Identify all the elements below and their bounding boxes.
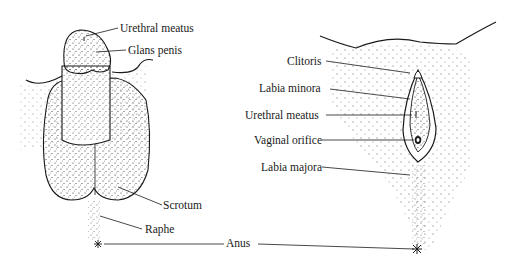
label-raphe: Raphe bbox=[145, 224, 174, 236]
female-figure bbox=[320, 22, 496, 254]
label-scrotum: Scrotum bbox=[163, 200, 202, 212]
label-clitoris: Clitoris bbox=[287, 56, 322, 68]
label-glans-penis: Glans penis bbox=[128, 45, 182, 57]
label-labia-majora: Labia majora bbox=[261, 162, 322, 174]
label-anus: Anus bbox=[226, 238, 250, 250]
label-labia-minora: Labia minora bbox=[259, 83, 321, 95]
male-figure bbox=[20, 30, 153, 248]
label-male-urethral-meatus: Urethral meatus bbox=[120, 23, 194, 35]
label-female-urethral-meatus: Urethral meatus bbox=[245, 110, 319, 122]
label-vaginal-orifice: Vaginal orifice bbox=[254, 135, 322, 147]
